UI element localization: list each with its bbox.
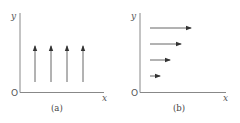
x-axis-label: x	[102, 93, 107, 103]
y-axis-label: y	[130, 11, 137, 21]
origin-label: O	[131, 88, 138, 98]
caption-b: (b)	[173, 103, 185, 113]
arrows-vertical	[35, 46, 83, 82]
x-axis-label: x	[223, 93, 228, 103]
origin-label: O	[11, 88, 18, 98]
panel-b: y O x (b)	[130, 11, 228, 113]
caption-a: (a)	[51, 103, 63, 113]
arrows-horizontal	[150, 28, 191, 76]
vector-field-diagrams: y O x (a) y O x (b)	[0, 0, 240, 123]
panel-a: y O x (a)	[10, 11, 107, 113]
y-axis-label: y	[10, 11, 17, 21]
